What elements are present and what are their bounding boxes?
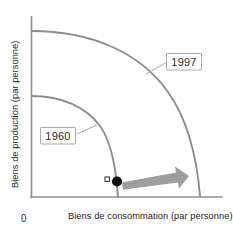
label-text-1960: 1960 [45,130,70,142]
growth-arrow-shape [122,167,189,190]
reference-point-square-marker [105,177,109,181]
chart-axes [31,17,222,198]
y-axis-title: Biens de production (par personne) [10,41,20,188]
chart-markers [105,176,122,186]
leader-line-1960 [77,125,97,134]
annotation-1960: 1960 [41,125,98,144]
label-text-1997: 1997 [171,56,196,68]
growth-arrow [122,167,189,190]
origin-label: 0 [21,213,27,224]
annotation-1997: 1997 [146,54,202,75]
x-axis-title: Biens de consommation (par personne) [68,211,233,221]
ppf-chart-figure: 1997 1960 Biens de consommation (par per… [0,0,233,233]
current-point-dot-marker [112,176,122,186]
leader-line-1997 [146,62,167,74]
chart-canvas: 1997 1960 Biens de consommation (par per… [0,0,233,233]
